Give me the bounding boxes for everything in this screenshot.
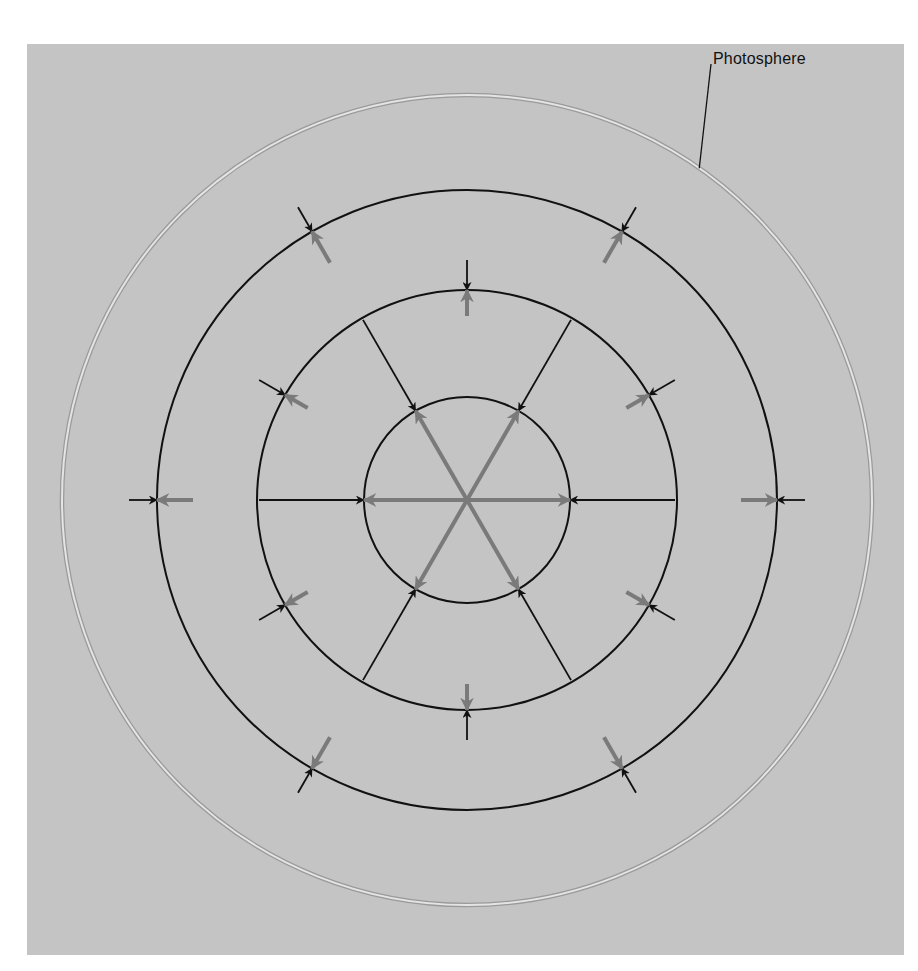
outward-pressure-arrow: [467, 411, 519, 500]
inward-gravity-arrow: [649, 380, 675, 395]
outward-pressure-arrow: [285, 395, 308, 408]
inward-gravity-arrow: [259, 380, 285, 395]
inward-gravity-arrow: [622, 768, 636, 792]
outward-pressure-arrow: [416, 411, 468, 500]
inward-gravity-arrow: [363, 320, 416, 411]
outward-pressure-arrow: [626, 395, 649, 408]
inward-gravity-arrow: [298, 768, 312, 792]
outward-pressure-arrow: [604, 737, 622, 768]
stellar-equilibrium-diagram: [0, 0, 918, 971]
outward-pressure-arrow: [285, 592, 308, 605]
inward-gravity-arrow: [298, 207, 312, 231]
photosphere-label: Photosphere: [713, 50, 806, 68]
photosphere-leader-line: [699, 64, 711, 168]
inward-gravity-arrow: [363, 589, 416, 680]
inward-gravity-arrow: [259, 605, 285, 620]
outward-pressure-arrow: [626, 592, 649, 605]
outward-pressure-arrow: [312, 737, 330, 768]
inward-gravity-arrow: [519, 320, 572, 411]
inward-gravity-arrow: [649, 605, 675, 620]
outward-pressure-arrow: [416, 500, 468, 589]
inward-gravity-arrow: [622, 207, 636, 231]
inward-gravity-arrow: [519, 589, 572, 680]
outward-pressure-arrow: [604, 232, 622, 263]
force-arrows: [129, 207, 805, 792]
outward-pressure-arrow: [312, 232, 330, 263]
outward-pressure-arrow: [467, 500, 519, 589]
